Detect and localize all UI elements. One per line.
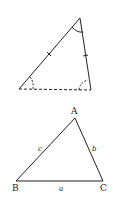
angle-arc-bottom-left (30, 77, 33, 89)
bottom-triangle (16, 118, 103, 181)
side-label-a: a (59, 185, 63, 193)
vertex-label-c: C (100, 183, 107, 193)
angle-arc-bottom-right (79, 80, 88, 90)
geometry-diagram: A B C c b a (0, 0, 113, 207)
top-right-side (80, 18, 91, 90)
top-left-side (19, 18, 80, 89)
side-b (75, 118, 103, 181)
tick-mark-right (83, 55, 88, 56)
top-triangle (19, 18, 91, 90)
vertex-label-b: B (12, 183, 19, 193)
side-c (16, 118, 75, 181)
top-dashed-base (19, 89, 91, 90)
side-label-c: c (38, 145, 42, 153)
side-label-b: b (92, 145, 97, 153)
vertex-label-a: A (70, 106, 78, 116)
